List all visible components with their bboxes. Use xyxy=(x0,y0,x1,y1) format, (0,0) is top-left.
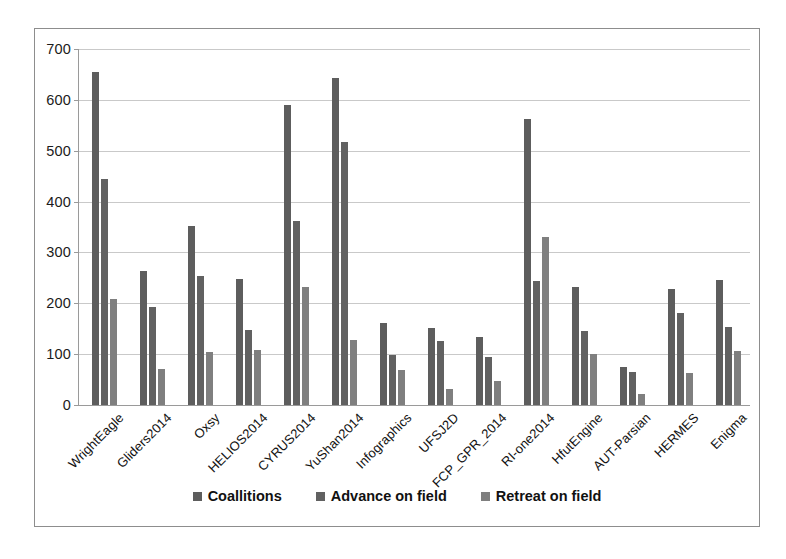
bar xyxy=(101,179,108,405)
y-tick-label: 700 xyxy=(46,41,71,57)
bar xyxy=(332,78,339,405)
bar-group xyxy=(572,49,597,405)
bar xyxy=(149,307,156,405)
x-tick-label: Enigma xyxy=(707,410,749,452)
bar xyxy=(668,289,675,405)
bar xyxy=(110,299,117,405)
bar xyxy=(572,287,579,405)
chart-frame: 0100200300400500600700 WrightEagleGlider… xyxy=(34,28,760,527)
bar xyxy=(485,357,492,405)
bar-group xyxy=(668,49,693,405)
legend-swatch-icon xyxy=(193,492,202,501)
bar xyxy=(398,370,405,405)
legend-entry[interactable]: Coallitions xyxy=(193,488,282,504)
bar xyxy=(725,327,732,405)
x-tick-label-wrap: HERMES xyxy=(651,410,701,460)
plot-area: 0100200300400500600700 xyxy=(78,49,750,406)
bar xyxy=(350,340,357,405)
bar xyxy=(293,221,300,405)
x-tick-label-wrap: Oxsy xyxy=(191,410,223,442)
y-tick-label: 500 xyxy=(46,143,71,159)
bar-group xyxy=(476,49,501,405)
bar xyxy=(302,287,309,405)
x-tick-label-wrap: Enigma xyxy=(707,410,749,452)
x-tick-label: UFSJ2D xyxy=(416,410,462,456)
bar xyxy=(734,351,741,405)
bar xyxy=(92,72,99,405)
y-tick-label: 100 xyxy=(46,346,71,362)
bar xyxy=(206,352,213,405)
y-tick-label: 300 xyxy=(46,244,71,260)
legend-entry[interactable]: Retreat on field xyxy=(481,488,602,504)
bar xyxy=(428,328,435,405)
legend-label: Coallitions xyxy=(208,488,282,504)
legend-label: Retreat on field xyxy=(496,488,602,504)
bar xyxy=(341,142,348,405)
bar xyxy=(590,354,597,405)
legend-swatch-icon xyxy=(481,492,490,501)
bar-group xyxy=(140,49,165,405)
x-tick-label: Oxsy xyxy=(191,410,223,442)
bar-group xyxy=(524,49,549,405)
bar xyxy=(284,105,291,405)
bar-group xyxy=(380,49,405,405)
bar xyxy=(446,389,453,405)
bar xyxy=(437,341,444,405)
bar-group xyxy=(236,49,261,405)
x-tick-label-wrap: UFSJ2D xyxy=(416,410,462,456)
bar xyxy=(236,279,243,405)
bar-group xyxy=(428,49,453,405)
bar-group xyxy=(620,49,645,405)
bar xyxy=(686,373,693,405)
bar xyxy=(197,276,204,405)
bar-group xyxy=(188,49,213,405)
bar xyxy=(677,313,684,405)
bar xyxy=(629,372,636,405)
bar-group xyxy=(284,49,309,405)
y-tick-label: 400 xyxy=(46,194,71,210)
y-tick-label: 0 xyxy=(63,397,71,413)
bar xyxy=(638,394,645,405)
bar xyxy=(476,337,483,405)
legend-swatch-icon xyxy=(316,492,325,501)
y-tick-label: 200 xyxy=(46,295,71,311)
bar-group xyxy=(716,49,741,405)
bar xyxy=(389,355,396,405)
bar xyxy=(494,381,501,405)
legend-label: Advance on field xyxy=(331,488,447,504)
bar xyxy=(140,271,147,405)
y-tick-label: 600 xyxy=(46,92,71,108)
bar xyxy=(380,323,387,405)
bar xyxy=(524,119,531,405)
bar xyxy=(158,369,165,405)
chart-legend: CoallitionsAdvance on fieldRetreat on fi… xyxy=(35,488,759,504)
bar xyxy=(245,330,252,405)
bar xyxy=(533,281,540,405)
bar-group xyxy=(92,49,117,405)
bar-group xyxy=(332,49,357,405)
bar xyxy=(716,280,723,405)
bar xyxy=(542,237,549,405)
bar xyxy=(254,350,261,405)
bar xyxy=(620,367,627,405)
x-tick-label: HERMES xyxy=(651,410,701,460)
bars-layer xyxy=(79,49,750,405)
legend-entry[interactable]: Advance on field xyxy=(316,488,447,504)
bar xyxy=(188,226,195,405)
bar xyxy=(581,331,588,405)
